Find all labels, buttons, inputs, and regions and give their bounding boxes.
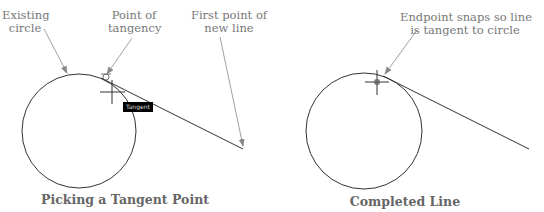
tangent-tooltip: Tangent xyxy=(123,102,153,112)
left-existing-circle xyxy=(22,74,136,188)
left-crosshair-cursor-icon xyxy=(100,80,125,104)
leader-point-of-tangency xyxy=(107,38,132,74)
right-tangent-line xyxy=(383,76,529,149)
leader-existing-circle xyxy=(44,29,67,73)
leader-first-point xyxy=(220,37,243,146)
right-circle xyxy=(306,73,422,189)
caption-right: Completed Line xyxy=(345,194,465,209)
label-endpoint-note: Endpoint snaps so line is tangent to cir… xyxy=(400,11,530,37)
label-point-of-tangency: Point of tangency xyxy=(108,9,160,35)
label-first-point: First point of new line xyxy=(184,9,274,35)
label-existing-circle: Existing circle xyxy=(2,9,48,35)
left-rubberband-line xyxy=(101,78,243,149)
caption-left: Picking a Tangent Point xyxy=(40,192,210,207)
